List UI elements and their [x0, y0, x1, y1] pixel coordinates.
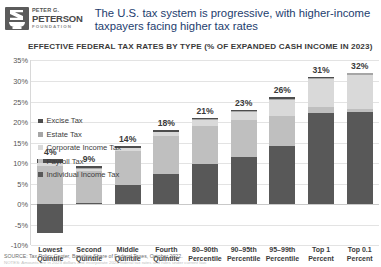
bar-segment-negative[interactable] — [37, 204, 63, 233]
bar-segment[interactable] — [76, 203, 102, 204]
bar-segment[interactable] — [269, 146, 295, 205]
bar-total-label: 14% — [119, 134, 136, 144]
bar-positive-stack — [192, 118, 218, 204]
brand-logo: PETER G. PETERSON FOUNDATION — [5, 7, 83, 30]
bar-total-label: 32% — [351, 61, 368, 71]
bar-total-label: 31% — [312, 65, 329, 75]
bar-segment[interactable] — [269, 100, 295, 116]
bar-total-label: 18% — [158, 118, 175, 128]
bar-segment[interactable] — [269, 116, 295, 146]
y-axis-tick-label: 0% — [17, 200, 28, 209]
bar-positive-stack — [347, 73, 373, 205]
bar-segment[interactable] — [347, 75, 373, 109]
legend-label: Estate Tax — [47, 130, 82, 139]
chart-footer: SOURCE: Tax Policy Center, Baseline Shar… — [4, 253, 377, 266]
y-axis-tick-label: 15% — [13, 138, 28, 147]
chart-legend: Excise TaxEstate TaxCorporate Income Tax… — [38, 116, 121, 183]
bar-segment[interactable] — [192, 126, 218, 165]
legend-swatch — [38, 132, 43, 137]
legend-label: Individual Income Tax — [47, 170, 120, 179]
bar-segment[interactable] — [115, 185, 141, 204]
bar-segment[interactable] — [231, 112, 257, 120]
brand-line-2: PETERSON — [32, 14, 83, 24]
legend-item[interactable]: Corporate Income Tax — [38, 143, 121, 152]
y-axis-tick-label: 5% — [17, 179, 28, 188]
page-header: PETER G. PETERSON FOUNDATION The U.S. ta… — [0, 0, 381, 33]
y-axis-tick-label: 10% — [13, 159, 28, 168]
bar-total-label: 23% — [235, 98, 252, 108]
bar-segment[interactable] — [347, 112, 373, 204]
brand-line-3: FOUNDATION — [32, 25, 83, 29]
y-axis-tick-label: 30% — [13, 76, 28, 85]
page-title: The U.S. tax system is progressive, with… — [95, 6, 375, 33]
bar-total-label: 21% — [196, 106, 213, 116]
bar-column[interactable]: 21% — [186, 60, 225, 245]
bar-positive-stack — [269, 97, 295, 204]
bar-column[interactable]: 32% — [340, 60, 379, 245]
peterson-foundation-lamp-logo-icon — [5, 7, 29, 30]
bar-positive-stack — [231, 110, 257, 205]
bar-segment[interactable] — [231, 157, 257, 204]
y-axis-tick-label: 25% — [13, 97, 28, 106]
note-text: NOTES: Amounts are in 2023 dollars and i… — [4, 260, 377, 266]
legend-item[interactable]: Payroll Tax — [38, 157, 121, 166]
bar-segment[interactable] — [308, 79, 334, 107]
bar-segment[interactable] — [153, 174, 179, 204]
bar-segment[interactable] — [231, 120, 257, 158]
legend-item[interactable]: Excise Tax — [38, 116, 121, 125]
bar-column[interactable]: 23% — [224, 60, 263, 245]
bar-column[interactable]: 26% — [263, 60, 302, 245]
legend-label: Excise Tax — [47, 116, 83, 125]
legend-label: Corporate Income Tax — [47, 143, 122, 152]
bar-total-label: 26% — [274, 85, 291, 95]
y-axis-tick-label: 20% — [13, 118, 28, 127]
bar-positive-stack — [308, 77, 334, 204]
chart-subtitle: EFFECTIVE FEDERAL TAX RATES BY TYPE (% O… — [28, 42, 381, 51]
y-axis-tick-label: -5% — [15, 220, 28, 229]
legend-item[interactable]: Estate Tax — [38, 130, 121, 139]
chart-container: 35%30%25%20%15%10%5%0%-5%-10% 4%9%14%18%… — [0, 56, 381, 252]
bar-positive-stack — [153, 130, 179, 204]
legend-swatch — [38, 159, 43, 164]
legend-swatch — [38, 119, 43, 124]
brand-logo-text: PETER G. PETERSON FOUNDATION — [32, 8, 83, 29]
bar-segment[interactable] — [192, 164, 218, 204]
bar-segment[interactable] — [153, 136, 179, 174]
legend-label: Payroll Tax — [47, 157, 84, 166]
bar-column[interactable]: 18% — [147, 60, 186, 245]
legend-item[interactable]: Individual Income Tax — [38, 170, 121, 179]
legend-swatch — [38, 145, 43, 150]
legend-swatch — [38, 172, 43, 177]
bar-column[interactable]: 31% — [302, 60, 341, 245]
bar-segment[interactable] — [308, 113, 334, 204]
y-axis-tick-label: -10% — [11, 241, 28, 250]
source-text: SOURCE: Tax Policy Center, Baseline Shar… — [4, 253, 377, 260]
y-axis-tick-label: 35% — [13, 56, 28, 65]
